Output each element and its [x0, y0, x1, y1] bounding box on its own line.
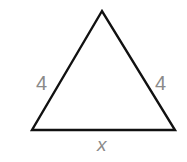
triangle-shape — [32, 11, 175, 130]
base-label: x — [96, 134, 108, 155]
triangle-diagram: 4 4 x — [0, 0, 187, 162]
left-side-label: 4 — [36, 72, 47, 94]
right-side-label: 4 — [155, 72, 166, 94]
